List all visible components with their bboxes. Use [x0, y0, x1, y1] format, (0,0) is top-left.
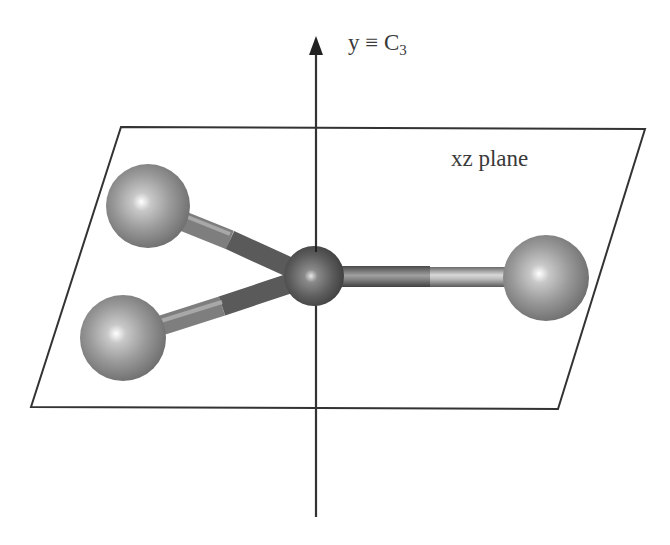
bond-right: [330, 266, 516, 287]
axis-label: y ≡ C3: [348, 30, 407, 59]
rotation-operator: C: [384, 30, 399, 55]
ligand-atom-right: [503, 235, 589, 321]
axis-symbol: y: [348, 30, 360, 55]
ligand-atom-lower-left: [80, 295, 166, 381]
axis-arrow-icon: [309, 36, 323, 55]
ligand-atom-upper-left: [106, 164, 190, 248]
central-atom: [284, 246, 344, 306]
plane-label: xz plane: [451, 146, 528, 172]
equivalence-symbol: ≡: [365, 30, 378, 55]
rotation-order: 3: [399, 42, 407, 58]
molecule-diagram: y ≡ C3 xz plane: [0, 0, 670, 545]
